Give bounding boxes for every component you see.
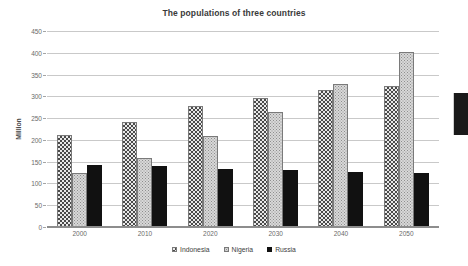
y-tick-label: 50 bbox=[35, 202, 42, 209]
y-tick-label: 150 bbox=[31, 158, 42, 165]
legend-label: Russia bbox=[275, 246, 296, 253]
x-axis-labels: 200020102020203020402050 bbox=[47, 230, 439, 242]
bar-group bbox=[374, 31, 439, 227]
y-tick-mark bbox=[43, 96, 46, 97]
x-tick-label: 2000 bbox=[47, 230, 112, 242]
bar-indonesia-2020 bbox=[188, 106, 203, 227]
y-tick-label: 300 bbox=[31, 93, 42, 100]
bar-indonesia-2010 bbox=[122, 122, 137, 227]
y-tick-label: 0 bbox=[38, 224, 42, 231]
y-tick-mark bbox=[43, 140, 46, 141]
y-tick-label: 200 bbox=[31, 136, 42, 143]
chart-legend: IndonesiaNigeriaRussia bbox=[0, 246, 468, 253]
y-tick-mark bbox=[43, 162, 46, 163]
bar-indonesia-2030 bbox=[253, 98, 268, 227]
bar-group bbox=[308, 31, 373, 227]
bar-russia-2030 bbox=[283, 170, 298, 227]
bar-russia-2010 bbox=[152, 166, 167, 227]
y-tick-mark bbox=[43, 227, 46, 228]
bar-indonesia-2050 bbox=[384, 86, 399, 227]
legend-swatch-icon bbox=[267, 247, 272, 252]
y-tick-label: 100 bbox=[31, 180, 42, 187]
x-axis-line bbox=[47, 226, 439, 227]
bar-group bbox=[178, 31, 243, 227]
y-tick-mark bbox=[43, 31, 46, 32]
x-tick-label: 2020 bbox=[178, 230, 243, 242]
legend-item-russia[interactable]: Russia bbox=[267, 246, 296, 253]
legend-swatch-icon bbox=[172, 247, 177, 252]
y-tick-label: 250 bbox=[31, 115, 42, 122]
x-tick-label: 2050 bbox=[374, 230, 439, 242]
bar-group bbox=[47, 31, 112, 227]
bar-group bbox=[112, 31, 177, 227]
x-tick-label: 2040 bbox=[308, 230, 373, 242]
x-tick-label: 2030 bbox=[243, 230, 308, 242]
y-tick-mark bbox=[43, 205, 46, 206]
y-tick-label: 350 bbox=[31, 71, 42, 78]
bar-indonesia-2040 bbox=[318, 90, 333, 227]
legend-swatch-icon bbox=[224, 247, 229, 252]
bar-indonesia-2000 bbox=[57, 135, 72, 227]
bar-russia-2000 bbox=[87, 165, 102, 227]
bar-nigeria-2000 bbox=[72, 173, 87, 227]
x-tick-label: 2010 bbox=[112, 230, 177, 242]
legend-label: Nigeria bbox=[232, 246, 254, 253]
gridline bbox=[47, 227, 439, 228]
bar-groups bbox=[47, 31, 439, 227]
bar-nigeria-2040 bbox=[333, 84, 348, 227]
bar-russia-2040 bbox=[348, 172, 363, 227]
y-tick-label: 450 bbox=[31, 28, 42, 35]
legend-item-indonesia[interactable]: Indonesia bbox=[172, 246, 209, 253]
y-tick-label: 400 bbox=[31, 49, 42, 56]
y-tick-mark bbox=[43, 53, 46, 54]
bar-russia-2020 bbox=[218, 169, 233, 227]
bar-nigeria-2020 bbox=[203, 136, 218, 227]
bar-russia-2050 bbox=[414, 173, 429, 227]
y-tick-mark bbox=[43, 183, 46, 184]
legend-label: Indonesia bbox=[180, 246, 209, 253]
plot-area: Million 050100150200250300350400450 bbox=[47, 31, 439, 227]
chart-title: The populations of three countries bbox=[0, 8, 468, 18]
y-tick-mark bbox=[43, 75, 46, 76]
bar-nigeria-2010 bbox=[137, 158, 152, 227]
bar-group bbox=[243, 31, 308, 227]
bar-nigeria-2030 bbox=[268, 112, 283, 227]
bar-nigeria-2050 bbox=[399, 52, 414, 227]
y-axis-title: Million bbox=[15, 118, 22, 140]
right-edge-clipped-element bbox=[453, 93, 468, 135]
y-tick-mark bbox=[43, 118, 46, 119]
legend-item-nigeria[interactable]: Nigeria bbox=[224, 246, 254, 253]
